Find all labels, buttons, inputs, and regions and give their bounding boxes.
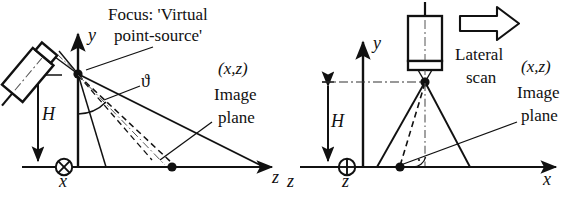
left-y-axis-label: y bbox=[88, 26, 96, 45]
right-image-plane-line1: Image bbox=[517, 84, 559, 102]
left-image-plane-line2: plane bbox=[218, 109, 255, 127]
right-image-plane-line2: plane bbox=[521, 107, 558, 125]
left-x-axis-label: x bbox=[59, 172, 67, 191]
right-z-axis-label-left: z bbox=[287, 172, 294, 191]
left-image-plane-line1: Image bbox=[214, 86, 256, 104]
right-image-plane-leader bbox=[398, 122, 517, 166]
focus-callout-line2: point-source' bbox=[114, 27, 202, 45]
left-height-label: H bbox=[42, 105, 55, 124]
lateral-scan-arrow-icon bbox=[460, 7, 519, 40]
left-callout-leader bbox=[86, 47, 153, 70]
right-coord-label: (x,z) bbox=[521, 58, 551, 76]
left-beam-converging bbox=[55, 51, 78, 74]
vertical-transducer bbox=[408, 2, 442, 82]
figure-canvas: Focus: 'Virtual point-source' y ϑ H (x,z… bbox=[0, 0, 588, 204]
right-x-axis-label: x bbox=[543, 170, 551, 189]
theta-angle-label: ϑ bbox=[141, 72, 150, 91]
left-z-axis-label: z bbox=[272, 168, 279, 187]
focus-callout-line1: Focus: 'Virtual bbox=[108, 6, 208, 24]
right-y-axis-label: y bbox=[373, 34, 381, 53]
left-coord-label: (x,z) bbox=[218, 60, 248, 78]
lateral-scan-line2: scan bbox=[466, 69, 496, 87]
right-cone bbox=[377, 82, 470, 167]
right-z-axis-label: z bbox=[342, 172, 349, 191]
left-image-plane-point bbox=[167, 162, 176, 171]
right-height-label: H bbox=[331, 112, 344, 131]
lateral-scan-line1: Lateral bbox=[455, 46, 503, 64]
